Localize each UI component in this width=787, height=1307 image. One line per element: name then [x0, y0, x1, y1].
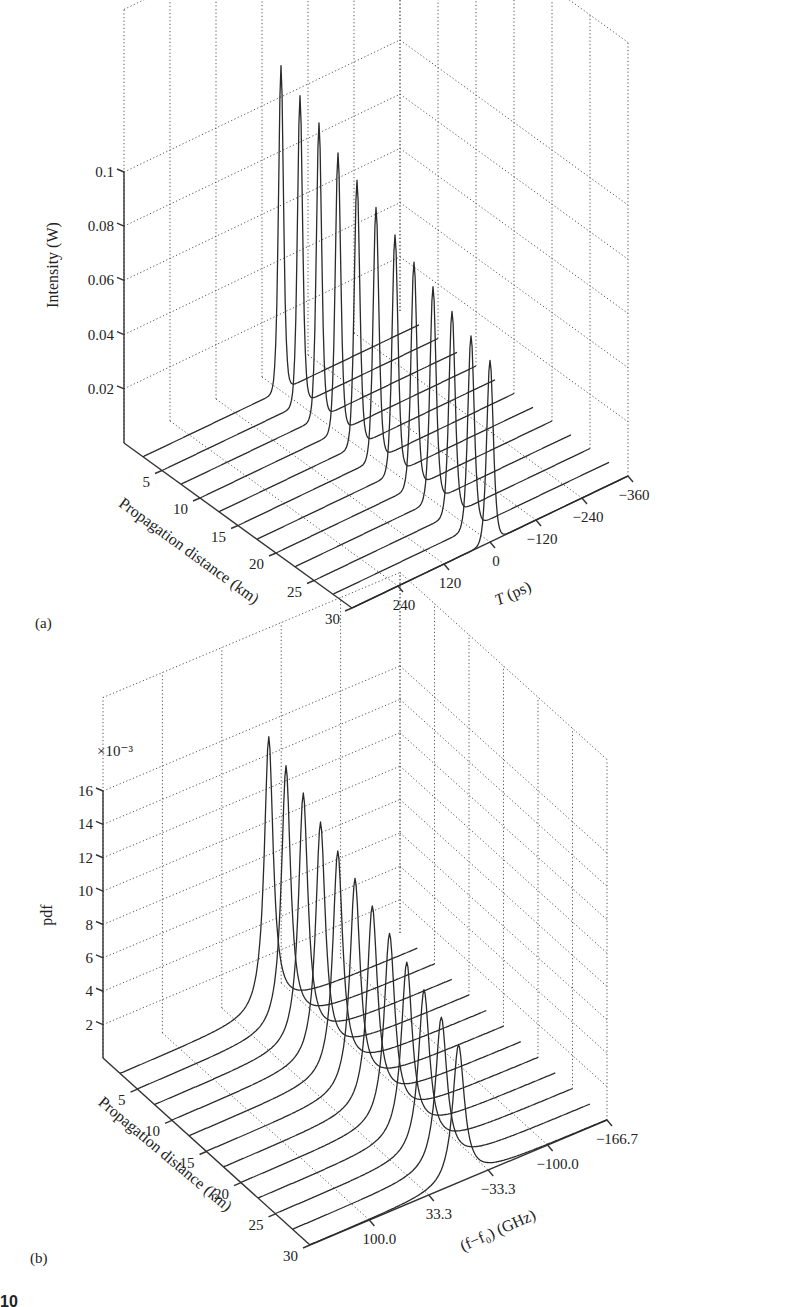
x-tick-label: 0	[492, 553, 500, 569]
distance-tick	[131, 1089, 138, 1092]
x-tick	[488, 1170, 493, 1176]
x-tick	[369, 1220, 374, 1226]
panel-b-pdf-waterfall: 24681012141651015202530100.033.3−33.3−10…	[30, 573, 639, 1267]
distance-tick	[231, 526, 238, 529]
x-tick	[490, 542, 495, 548]
z-tick-label: 4	[86, 983, 94, 999]
x-tick	[607, 1120, 612, 1126]
x-tick-label: −100.0	[536, 1156, 578, 1172]
panel-a-intensity-waterfall: 0.020.040.060.080.1510152025302401200−12…	[35, 0, 649, 632]
x-tick-label: 240	[393, 597, 416, 613]
distance-axis-title: Propagation distance (km)	[115, 494, 262, 608]
z-tick-label: 12	[78, 850, 93, 866]
x-tick-label: −166.7	[596, 1131, 639, 1147]
z-tick-label: 0.1	[95, 164, 114, 180]
z-tick	[96, 888, 103, 891]
z-tick	[96, 855, 103, 858]
distance-tick-label: 10	[173, 501, 188, 517]
figure-caption-fragment: 10	[0, 1293, 18, 1307]
z-tick	[96, 988, 103, 991]
distance-tick	[269, 1214, 276, 1217]
waterfall-trace	[241, 933, 538, 1182]
z-tick-label: 0.06	[88, 272, 115, 288]
waterfall-trace	[333, 336, 609, 595]
z-tick	[117, 332, 124, 335]
x-tick	[548, 1145, 553, 1151]
waterfall-trace	[120, 737, 417, 1073]
x-tick-label: 100.0	[363, 1231, 397, 1247]
waterfall-trace	[172, 822, 469, 1120]
distance-tick	[165, 1120, 172, 1123]
distance-tick	[345, 608, 352, 611]
grid-line	[341, 958, 548, 1145]
x-tick	[444, 564, 449, 570]
z-tick-label: 10	[78, 883, 93, 899]
z-tick-label: 14	[78, 816, 94, 832]
z-tick-label: 0.02	[88, 381, 114, 397]
waterfall-trace	[224, 906, 521, 1167]
grid-line	[400, 833, 607, 1020]
x-tick-label: −33.3	[481, 1181, 516, 1197]
distance-tick	[269, 553, 276, 556]
z-axis-title: Intensity (W)	[44, 222, 62, 308]
distance-tick-label: 25	[287, 584, 302, 600]
x-tick-label: 120	[439, 575, 462, 591]
grid-line	[103, 900, 400, 1025]
distance-tick	[234, 1183, 241, 1186]
x-tick	[536, 520, 541, 526]
grid-line	[103, 833, 400, 958]
waterfall-trace	[276, 990, 573, 1214]
grid-line	[103, 733, 400, 858]
distance-tick-label: 5	[143, 474, 151, 490]
waterfall-trace	[155, 793, 452, 1104]
x-tick-label: 33.3	[426, 1206, 452, 1222]
panel-label: (a)	[35, 615, 52, 632]
x-tick-label: −360	[619, 487, 650, 503]
distance-tick	[307, 581, 314, 584]
grid-line	[103, 766, 400, 891]
waterfall-trace	[310, 1045, 607, 1245]
distance-tick	[200, 1152, 207, 1155]
x-axis-title: (f−f₀) (GHz)	[457, 1206, 538, 1255]
distance-tick	[155, 471, 162, 474]
x-tick	[628, 476, 633, 482]
distance-axis-title: Propagation distance (km)	[95, 1093, 236, 1215]
z-tick-label: 0.08	[88, 218, 114, 234]
grid-line	[400, 866, 607, 1053]
distance-tick	[303, 1245, 310, 1248]
z-tick	[96, 821, 103, 824]
distance-tick	[193, 498, 200, 501]
figure-canvas: 0.020.040.060.080.1510152025302401200−12…	[0, 0, 787, 1307]
z-tick	[96, 788, 103, 791]
z-tick	[117, 169, 124, 172]
z-tick-label: 16	[78, 783, 94, 799]
grid-line	[103, 666, 400, 791]
distance-tick-label: 20	[249, 556, 264, 572]
z-axis-title: pdf	[38, 904, 56, 926]
z-tick	[117, 386, 124, 389]
z-tick-label: 2	[86, 1017, 94, 1033]
z-tick	[96, 922, 103, 925]
z-tick-label: 0.04	[88, 327, 115, 343]
x-tick	[582, 498, 587, 504]
z-tick	[96, 1022, 103, 1025]
distance-tick-label: 25	[249, 1217, 264, 1233]
waterfall-trace	[352, 360, 628, 608]
x-tick-label: −120	[527, 531, 558, 547]
grid-line	[162, 1033, 369, 1220]
x-axis-title: T (ps)	[492, 578, 534, 610]
distance-tick-label: 15	[211, 529, 226, 545]
z-tick-label: 8	[86, 917, 94, 933]
grid-line	[400, 733, 607, 920]
grid-line	[103, 800, 400, 925]
x-tick	[429, 1195, 434, 1201]
z-tick-label: 6	[86, 950, 94, 966]
distance-tick-label: 30	[283, 1248, 298, 1264]
z-tick	[96, 955, 103, 958]
z-tick	[117, 223, 124, 226]
panel-label: (b)	[30, 1250, 48, 1267]
z-tick	[117, 277, 124, 280]
x-tick-label: −240	[573, 509, 604, 525]
distance-tick-label: 30	[325, 611, 340, 627]
z-multiplier-label: ×10⁻³	[97, 743, 133, 759]
